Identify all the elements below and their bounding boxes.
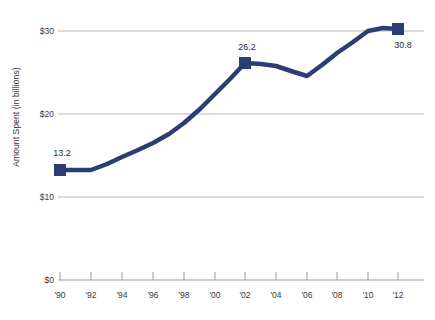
x-tick-label-1996: '96 xyxy=(147,290,158,300)
x-tick-label-2012: '12 xyxy=(392,290,403,300)
data-label-1990: 13.2 xyxy=(53,148,71,158)
x-tick-label-1990: '90 xyxy=(54,290,65,300)
x-tick-label-2000: '00 xyxy=(209,290,220,300)
x-tick-label-2008: '08 xyxy=(331,290,342,300)
x-tick-label-2002: '02 xyxy=(239,290,250,300)
x-axis-tick-labels: '90 '92 '94 '96 '98 '00 '02 '04 '06 '08 … xyxy=(0,0,435,320)
x-tick-label-2004: '04 xyxy=(270,290,281,300)
x-tick-label-1998: '98 xyxy=(178,290,189,300)
x-tick-label-2010: '10 xyxy=(362,290,373,300)
x-tick-label-1994: '94 xyxy=(116,290,127,300)
data-label-2012: 30.8 xyxy=(394,40,412,50)
line-chart: Amount Spent (in billions) xyxy=(0,0,435,320)
x-tick-label-1992: '92 xyxy=(85,290,96,300)
x-tick-label-2006: '06 xyxy=(301,290,312,300)
data-label-2002: 26.2 xyxy=(238,42,256,52)
